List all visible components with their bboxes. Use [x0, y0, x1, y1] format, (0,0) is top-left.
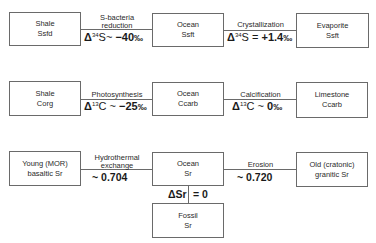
ocean-ssft-box: Ocean Ssft [152, 13, 224, 47]
delta-value: −25 [119, 100, 138, 112]
permil-unit: ‰ [134, 33, 143, 43]
isotope-mass: 13 [240, 101, 247, 107]
isotope-mass: 34 [92, 32, 99, 38]
box-label: Ocean [177, 159, 199, 169]
process-label-crystallization: Crystallization [224, 21, 297, 29]
box-label: Corg [37, 99, 53, 109]
limestone-ccarb-box: Limestone Ccarb [296, 82, 368, 118]
box-label: Sr [184, 221, 192, 231]
delta-sr-value: = 0 [193, 188, 208, 200]
young-basaltic-sr-box: Young (MOR) basaltic Sr [9, 151, 81, 186]
delta-c13-photosynthesis: Δ13C ~ −25‰ [84, 100, 147, 112]
process-text: reduction [81, 22, 153, 30]
isotope-mass: 13 [92, 101, 99, 107]
process-text: Erosion [224, 161, 297, 169]
box-label: Shale [35, 19, 54, 29]
box-label: granitic Sr [315, 170, 349, 180]
element: C ~ [247, 100, 267, 112]
ocean-sr-box: Ocean Sr [152, 152, 224, 186]
isotope-mass: 34 [235, 32, 242, 38]
process-label-s-bacteria: S-bacteria reduction [81, 14, 153, 30]
box-label: Ccarb [322, 100, 342, 110]
connector-line [224, 169, 297, 170]
delta-c13-calcification: Δ13C ~ 0‰ [232, 100, 282, 112]
box-label: Old (cratonic) [309, 160, 354, 170]
sr-ratio-erosion: ~ 0.720 [237, 171, 272, 183]
old-granitic-sr-box: Old (cratonic) granitic Sr [296, 152, 368, 187]
process-label-calcification: Calcification [224, 91, 297, 99]
process-label-erosion: Erosion [224, 161, 297, 169]
delta-symbol: Δ [84, 100, 92, 112]
box-label: basaltic Sr [27, 169, 62, 179]
delta-symbol: Δ [227, 31, 235, 43]
box-label: Ssft [182, 30, 195, 40]
permil-unit: ‰ [138, 102, 147, 112]
ocean-ccarb-box: Ocean Ccarb [152, 82, 224, 116]
shale-corg-box: Shale Corg [9, 81, 81, 116]
box-label: Ocean [177, 20, 199, 30]
delta-label: ΔSr [168, 188, 187, 200]
box-label: Ocean [177, 89, 199, 99]
fossil-sr-box: Fossil Sr [152, 203, 224, 238]
box-label: Ssfd [37, 29, 52, 39]
element: S = [242, 31, 262, 43]
delta-sr-fossil: ΔSr [168, 188, 187, 200]
box-label: Shale [35, 89, 54, 99]
permil-unit: ‰ [273, 102, 282, 112]
delta-symbol: Δ [232, 100, 240, 112]
delta-s34-crystallization: Δ34S = +1.4‰ [227, 31, 292, 43]
box-label: Fossil [178, 211, 198, 221]
process-text: Photosynthesis [81, 91, 153, 99]
delta-s34-reduction: Δ34S~ −40‰ [84, 31, 143, 43]
shale-ssfd-box: Shale Ssfd [9, 12, 81, 46]
permil-unit: ‰ [283, 33, 292, 43]
process-label-photosynthesis: Photosynthesis [81, 91, 153, 99]
connector-line-vertical [188, 185, 189, 204]
box-label: Sr [184, 169, 192, 179]
box-label: Limestone [315, 90, 350, 100]
evaporite-ssft-box: Evaporite Ssft [296, 13, 369, 48]
element: S~ [99, 31, 116, 43]
delta-value: −40 [115, 31, 134, 43]
box-label: Evaporite [317, 21, 349, 31]
box-label: Ssft [326, 31, 339, 41]
process-label-hydrothermal: Hydrothermal exchange [81, 154, 153, 170]
delta-value: +1.4 [261, 31, 283, 43]
element: C ~ [99, 100, 119, 112]
process-text: exchange [81, 162, 153, 170]
box-label: Ccarb [178, 99, 198, 109]
process-text: Crystallization [224, 21, 297, 29]
process-text: Calcification [224, 91, 297, 99]
sr-ratio-hydrothermal: ~ 0.704 [92, 171, 127, 183]
delta-symbol: Δ [84, 31, 92, 43]
box-label: Young (MOR) [22, 159, 68, 169]
